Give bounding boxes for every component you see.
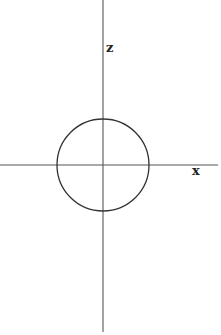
diagram-canvas: z x bbox=[0, 0, 221, 335]
z-axis-label: z bbox=[106, 40, 113, 55]
x-axis-label: x bbox=[192, 163, 200, 178]
